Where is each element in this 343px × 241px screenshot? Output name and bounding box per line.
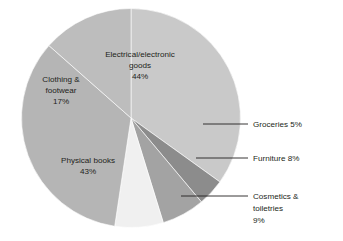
callout-label-cosmetics: Cosmetics & toiletries 9% [253,192,299,225]
groceries-label-text: Groceries 5% [253,120,302,129]
furniture-label-text: Furniture 8% [253,154,299,163]
callout-label-furniture: Furniture 8% [253,154,299,163]
pie-chart-svg: Electrical/electronic goods 44% Clothing… [0,0,343,241]
electrical-label-line2: goods [129,61,151,70]
electrical-label-line1: Electrical/electronic [105,50,175,59]
books-label-value: 43% [80,167,96,176]
pie-slices-group [22,9,241,228]
clothing-label-value: 17% [53,97,69,106]
clothing-label-line2: footwear [45,86,76,95]
books-label-line1: Physical books [61,156,115,165]
clothing-label-line1: Clothing & [42,75,80,84]
cosmetics-label-value: 9% [253,216,265,225]
callout-label-groceries: Groceries 5% [253,120,302,129]
electrical-label-value: 44% [132,72,148,81]
pie-chart: Electrical/electronic goods 44% Clothing… [0,0,343,241]
cosmetics-label-line2: toiletries [253,204,283,213]
cosmetics-label-line1: Cosmetics & [253,192,299,201]
